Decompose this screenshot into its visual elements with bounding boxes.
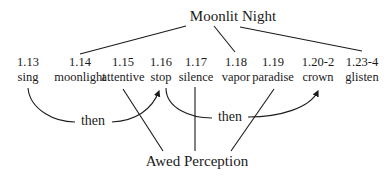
- item-word: vapor: [222, 71, 250, 84]
- item-word: stop: [151, 71, 172, 84]
- link-vapor: [214, 26, 235, 52]
- then-label-2: then: [216, 110, 244, 124]
- item-word: sing: [18, 71, 39, 84]
- item-word: silence: [179, 71, 214, 84]
- item-num: 1.23-4: [346, 56, 378, 69]
- item-num: 1.18: [225, 56, 247, 69]
- item-num: 1.15: [112, 56, 134, 69]
- item-num: 1.13: [17, 56, 39, 69]
- item-num: 1.20-2: [302, 56, 334, 69]
- item-word: crown: [302, 71, 333, 84]
- item-word: glisten: [345, 71, 378, 84]
- item-num: 1.19: [262, 56, 284, 69]
- then-label-1: then: [79, 114, 107, 128]
- item-num: 1.14: [69, 56, 91, 69]
- item-word: moonlight: [54, 71, 105, 84]
- item-num: 1.17: [185, 56, 207, 69]
- item-num: 1.16: [150, 56, 172, 69]
- link-glisten: [240, 27, 362, 51]
- item-word: attentive: [101, 71, 144, 84]
- link-attentive: [123, 89, 163, 151]
- top-node-label: Moonlit Night: [190, 9, 276, 24]
- bottom-node-label: Awed Perception: [146, 154, 248, 169]
- link-moonlight: [80, 26, 186, 54]
- item-word: paradise: [252, 71, 294, 84]
